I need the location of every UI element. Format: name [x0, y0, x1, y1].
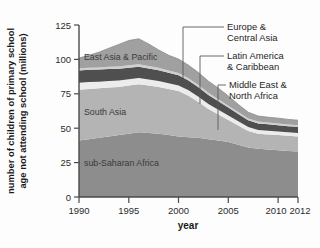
- callout-europe-central-asia-line1: Europe &: [227, 21, 267, 32]
- x-ticklabel-2000: 2000: [168, 205, 189, 216]
- y-axis-title-line2: age not attending school (millions): [17, 33, 28, 188]
- y-axis-tick-labels: 125 100 75 50 25 0: [55, 20, 71, 203]
- x-axis-tick-labels: 1990 1995 2000 2005 2010 2012: [68, 205, 310, 216]
- band-label-east-asia-pacific: East Asia & Pacific: [84, 52, 158, 62]
- y-ticklabel-100: 100: [55, 54, 71, 65]
- x-ticklabel-1990: 1990: [68, 205, 89, 216]
- y-ticklabel-25: 25: [60, 157, 71, 168]
- callout-middle-east-north-africa-line1: Middle East &: [229, 79, 288, 90]
- x-axis-ticks: [79, 197, 298, 203]
- band-label-south-asia: South Asia: [84, 107, 126, 117]
- x-ticklabel-2012: 2012: [289, 205, 310, 216]
- callout-europe-central-asia-line2: Central Asia: [227, 32, 278, 43]
- y-ticklabel-75: 75: [60, 88, 71, 99]
- stacked-area-chart: 125 100 75 50 25 0 1990 1995 2000 2005 2…: [0, 0, 320, 248]
- x-ticklabel-2005: 2005: [218, 205, 239, 216]
- x-ticklabel-1995: 1995: [118, 205, 139, 216]
- y-ticklabel-0: 0: [66, 192, 71, 203]
- y-ticklabel-125: 125: [55, 20, 71, 31]
- y-axis-ticks: [74, 25, 79, 197]
- callout-latin-america-caribbean-line1: Latin America: [227, 50, 285, 61]
- x-ticklabel-2010: 2010: [265, 205, 286, 216]
- chart-figure: 125 100 75 50 25 0 1990 1995 2000 2005 2…: [0, 0, 320, 248]
- callout-middle-east-north-africa-line2: North Africa: [229, 90, 279, 101]
- y-ticklabel-50: 50: [60, 123, 71, 134]
- callout-latin-america-caribbean-line2: & Caribbean: [227, 61, 279, 72]
- y-axis-title-line1: number of children of primary school: [5, 28, 16, 194]
- x-axis-title: year: [178, 220, 199, 231]
- band-label-sub-saharan-africa: sub-Saharan Africa: [84, 158, 159, 168]
